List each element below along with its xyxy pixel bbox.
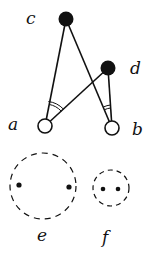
label-e: e [37, 225, 47, 245]
label-a: a [8, 114, 18, 134]
node-d [101, 61, 116, 76]
node-b [105, 121, 119, 135]
node-a [38, 119, 52, 133]
group-f-boundary [93, 170, 129, 206]
label-d: d [130, 58, 141, 78]
group-e-point-1 [16, 182, 21, 187]
diagram-canvas: c d a b e f [0, 0, 150, 256]
node-c [59, 12, 74, 27]
label-b: b [132, 119, 143, 139]
label-c: c [26, 8, 36, 28]
label-f: f [100, 227, 111, 247]
group-e-point-2 [66, 184, 71, 189]
angle-mark-a [48, 102, 63, 112]
group-f-point-1 [101, 187, 106, 192]
group-f-point-2 [116, 187, 121, 192]
